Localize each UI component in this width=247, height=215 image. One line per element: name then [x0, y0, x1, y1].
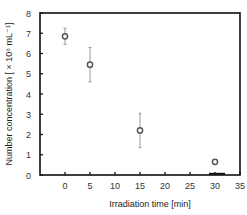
x-tick-label: 15: [135, 181, 145, 191]
x-tick-label: 0: [62, 181, 67, 191]
plot-frame: [40, 13, 240, 175]
y-axis-title: Number concentration [ × 10⁶ mL⁻¹]: [4, 22, 14, 165]
x-tick-label: 20: [160, 181, 170, 191]
y-tick-label: 8: [26, 9, 31, 19]
y-tick-label: 7: [26, 29, 31, 39]
y-tick-label: 6: [26, 49, 31, 59]
x-tick-label: 25: [185, 181, 195, 191]
y-tick-label: 0: [26, 171, 31, 181]
x-tick-label: 10: [110, 181, 120, 191]
data-point-marker: [87, 62, 92, 67]
y-tick-label: 1: [26, 150, 31, 160]
x-tick-label: 35: [235, 181, 245, 191]
y-tick-label: 5: [26, 69, 31, 79]
x-tick-label: 30: [210, 181, 220, 191]
data-point-marker: [62, 34, 67, 39]
y-tick-label: 4: [26, 90, 31, 100]
x-tick-label: 5: [87, 181, 92, 191]
data-point-marker: [137, 128, 142, 133]
y-tick-label: 2: [26, 130, 31, 140]
x-axis-title: Irradiation time [min]: [109, 199, 191, 209]
data-point-marker: [212, 159, 217, 164]
scatter-chart: 01234567805101520253035Irradiation time …: [0, 0, 247, 215]
y-tick-label: 3: [26, 110, 31, 120]
